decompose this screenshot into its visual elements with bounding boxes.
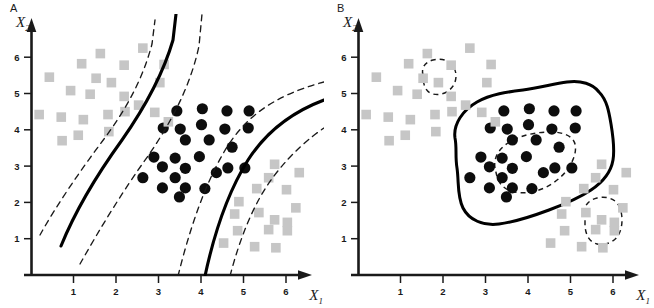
panel-a-x-tick-5: 5 (241, 286, 247, 297)
data-point-square (219, 238, 229, 248)
data-point-square (291, 203, 301, 213)
data-point-square (597, 159, 607, 169)
data-point-square (384, 136, 394, 146)
panel-b-y-ticks: 1 2 3 4 5 6 (341, 52, 359, 245)
data-point-circle (571, 105, 582, 116)
panel-b-cluster-contours (422, 59, 622, 244)
panel-b-y-tick-3: 3 (341, 161, 346, 172)
panel-a-x-tick-3: 3 (156, 286, 161, 297)
panel-a-plot: 1 2 3 4 5 6 1 2 3 4 5 6 (0, 0, 327, 308)
data-point-square (233, 226, 243, 236)
data-point-square (404, 59, 414, 69)
data-point-square (283, 218, 293, 228)
data-point-square (591, 173, 601, 183)
data-point-circle (538, 167, 549, 178)
data-point-square (270, 159, 280, 169)
data-point-square (250, 242, 260, 252)
data-point-square (372, 72, 382, 82)
data-point-circle (502, 123, 513, 134)
data-point-square (486, 60, 496, 70)
panel-b-y-tick-5: 5 (341, 88, 347, 99)
panel-b-data-markers (361, 43, 631, 252)
panel-b-x-tick-1: 1 (398, 286, 404, 297)
data-point-square (271, 243, 281, 253)
data-point-circle (137, 172, 148, 183)
data-point-square (264, 173, 274, 183)
data-point-square (34, 110, 44, 120)
data-point-square (465, 43, 475, 53)
data-point-square (618, 203, 628, 213)
panel-a-x-tick-4: 4 (198, 286, 204, 297)
data-point-square (77, 59, 87, 69)
data-point-circle (548, 105, 559, 116)
panel-a-y-tick-1: 1 (14, 233, 20, 244)
panel-b: B X2 X1 1 2 (327, 0, 654, 308)
panel-b-y-tick-2: 2 (341, 197, 346, 208)
data-point-square (107, 78, 117, 88)
panel-b-y-tick-4: 4 (341, 124, 347, 135)
data-point-square (621, 168, 631, 178)
data-point-square (591, 225, 601, 235)
data-point-square (120, 107, 130, 117)
data-point-square (138, 43, 148, 53)
data-point-square (546, 238, 556, 248)
data-point-square (561, 197, 571, 207)
data-point-square (446, 60, 456, 70)
data-point-circle (484, 161, 495, 172)
data-point-square (252, 184, 262, 194)
panel-a-x-tick-6: 6 (283, 286, 288, 297)
data-point-square (96, 49, 106, 59)
data-point-square (477, 108, 487, 118)
data-point-circle (222, 162, 233, 173)
data-point-square (282, 185, 292, 195)
data-point-circle (221, 105, 232, 116)
data-point-square (234, 197, 244, 207)
panel-b-x-tick-2: 2 (440, 286, 445, 297)
data-point-square (150, 108, 160, 118)
data-point-square (598, 243, 608, 253)
data-point-square (447, 107, 457, 117)
data-point-circle (507, 134, 518, 145)
data-point-circle (170, 153, 181, 164)
data-point-circle (549, 162, 560, 173)
panel-a-decision-boundaries (40, 14, 324, 276)
data-point-square (283, 226, 293, 236)
data-point-circle (227, 142, 238, 153)
data-point-circle (484, 182, 495, 193)
data-point-circle (497, 172, 508, 183)
data-point-square (577, 242, 587, 252)
data-point-square (610, 226, 620, 236)
data-point-circle (526, 183, 537, 194)
data-point-square (579, 184, 589, 194)
data-point-square (91, 73, 101, 83)
figure-container: A X2 X1 (0, 0, 654, 308)
panel-b-x-tick-6: 6 (610, 286, 615, 297)
data-point-square (119, 92, 129, 102)
data-point-square (264, 225, 274, 235)
data-point-circle (523, 119, 534, 130)
data-point-square (423, 49, 433, 59)
data-point-circle (501, 191, 512, 202)
data-point-square (57, 136, 67, 146)
data-point-square (294, 168, 304, 178)
data-point-square (164, 117, 174, 127)
panel-a: A X2 X1 (0, 0, 327, 308)
panel-b-x-ticks: 1 2 3 4 5 6 (398, 275, 616, 297)
data-point-square (557, 209, 567, 219)
data-point-square (430, 110, 440, 120)
panel-a-y-tick-3: 3 (14, 161, 19, 172)
data-point-circle (197, 103, 208, 114)
data-point-square (406, 115, 416, 125)
data-point-square (610, 218, 620, 228)
data-point-square (560, 226, 570, 236)
data-point-circle (524, 103, 535, 114)
data-point-circle (170, 172, 181, 183)
data-point-square (597, 215, 607, 225)
panel-b-y-tick-1: 1 (341, 233, 347, 244)
data-point-square (581, 208, 591, 218)
data-point-square (270, 215, 280, 225)
data-point-square (119, 60, 129, 70)
data-point-circle (180, 163, 191, 174)
data-point-circle (196, 119, 207, 130)
data-point-circle (497, 153, 508, 164)
